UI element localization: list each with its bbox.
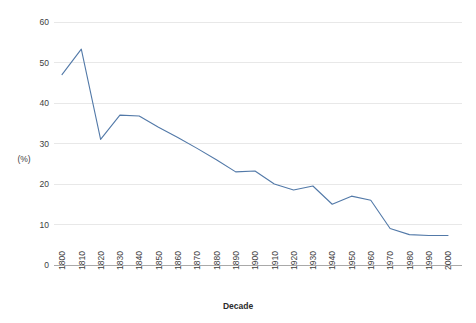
x-tick-label: 1830 — [115, 251, 125, 270]
x-tick-label: 1840 — [134, 251, 144, 270]
x-axis-tick-labels: 1800181018201830184018501860187018801890… — [57, 251, 453, 270]
x-axis-title: Decade — [223, 301, 254, 311]
line-chart-svg: 0102030405060 18001810182018301840185018… — [0, 0, 476, 323]
y-tick-label: 20 — [40, 179, 50, 189]
x-tick-label: 1850 — [154, 251, 164, 270]
y-axis-label: (%) — [17, 154, 30, 164]
x-tick-label: 2000 — [443, 251, 453, 270]
x-tick-label: 1860 — [173, 251, 183, 270]
y-tick-label: 50 — [40, 58, 50, 68]
x-tick-label: 1970 — [385, 251, 395, 270]
y-tick-label: 30 — [40, 139, 50, 149]
chart-container: 0102030405060 18001810182018301840185018… — [0, 0, 476, 323]
x-tick-label: 1930 — [308, 251, 318, 270]
x-tick-label: 1960 — [366, 251, 376, 270]
x-tick-label: 1890 — [231, 251, 241, 270]
x-tick-label: 1870 — [192, 251, 202, 270]
x-tick-label: 1800 — [57, 251, 67, 270]
x-tick-label: 1820 — [96, 251, 106, 270]
x-tick-label: 1980 — [405, 251, 415, 270]
x-tick-label: 1900 — [250, 251, 260, 270]
x-tick-label: 1990 — [424, 251, 434, 270]
x-tick-label: 1920 — [289, 251, 299, 270]
x-tick-label: 1810 — [77, 251, 87, 270]
x-tick-label: 1950 — [347, 251, 357, 270]
x-tick-label: 1880 — [212, 251, 222, 270]
x-tick-label: 1910 — [270, 251, 280, 270]
y-tick-label: 0 — [44, 260, 49, 270]
y-tick-label: 40 — [40, 98, 50, 108]
y-tick-label: 10 — [40, 220, 50, 230]
y-tick-label: 60 — [40, 17, 50, 27]
x-tick-label: 1940 — [327, 251, 337, 270]
chart-background — [0, 0, 476, 323]
